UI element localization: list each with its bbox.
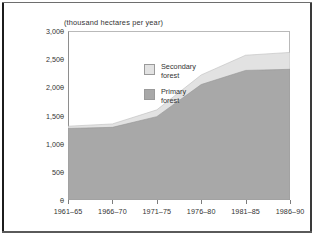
x-tick-mark: [112, 200, 113, 204]
x-tick-mark: [246, 200, 247, 204]
y-tick-mark: [60, 200, 64, 201]
legend-label-line2: forest: [161, 72, 196, 81]
area-chart: (thousand hectares per year) 3,0002,5002…: [4, 4, 310, 231]
border-bottom: [2, 231, 312, 233]
plot-area: SecondaryforestPrimaryforest: [68, 31, 290, 200]
image-border: (thousand hectares per year) 3,0002,5002…: [0, 0, 334, 235]
series-layer: [68, 31, 290, 200]
legend-label: Secondaryforest: [161, 63, 196, 80]
x-tick-label: 1976–80: [187, 207, 216, 216]
x-tick-label: 1966–70: [98, 207, 127, 216]
x-tick-label: 1971–75: [142, 207, 171, 216]
y-tick-mark: [60, 172, 64, 173]
y-tick-mark: [60, 116, 64, 117]
y-axis: 3,0002,5002,0001,5001,0005000: [4, 31, 64, 200]
x-tick-label: 1981–85: [231, 207, 260, 216]
legend-label: Primaryforest: [161, 88, 186, 105]
border-right: [310, 2, 312, 233]
y-tick-mark: [60, 59, 64, 60]
y-tick-mark: [60, 87, 64, 88]
border-top: [2, 2, 312, 3]
chart-unit-title: (thousand hectares per year): [64, 18, 163, 27]
x-axis-ticks: [68, 200, 290, 205]
legend-label-line2: forest: [161, 97, 186, 106]
x-tick-mark: [290, 200, 291, 204]
y-tick-mark: [60, 31, 64, 32]
x-tick-label: 1986–90: [276, 207, 305, 216]
x-axis-labels: 1961–651966–701971–751976–801981–851986–…: [38, 207, 320, 221]
x-tick-mark: [68, 200, 69, 204]
y-tick-mark: [60, 144, 64, 145]
x-tick-mark: [201, 200, 202, 204]
x-tick-label: 1961–65: [54, 207, 83, 216]
x-tick-mark: [157, 200, 158, 204]
legend-swatch: [144, 64, 155, 75]
legend-swatch: [144, 89, 155, 100]
